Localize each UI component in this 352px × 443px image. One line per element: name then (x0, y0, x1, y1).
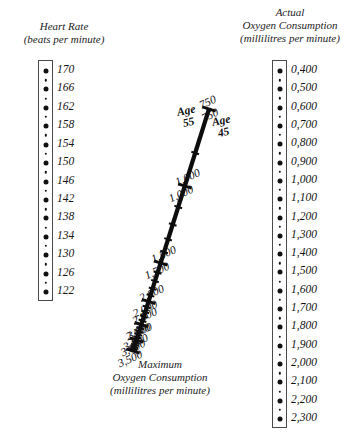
heart-rate-minor-tick (44, 226, 46, 228)
heart-rate-minor-tick (44, 282, 46, 284)
actual-oxygen-tick (277, 398, 282, 403)
heart-rate-minor-tick (44, 171, 46, 173)
actual-oxygen-tick-label: 1,600 (291, 284, 317, 296)
actual-oxygen-tick-label: 1,800 (291, 321, 317, 333)
actual-oxygen-minor-tick (278, 390, 280, 392)
heart-rate-tick (43, 161, 48, 166)
actual-oxygen-minor-tick (278, 317, 280, 319)
actual-oxygen-tick-container (273, 61, 286, 427)
actual-oxygen-tick (277, 87, 282, 92)
actual-oxygen-tick-label: 1,000 (291, 174, 317, 186)
actual-oxygen-tick (277, 178, 282, 183)
heart-rate-tick-label: 142 (57, 193, 74, 205)
actual-oxygen-tick-label: 1,500 (291, 266, 317, 278)
actual-oxygen-minor-tick (278, 299, 280, 301)
actual-oxygen-tick (277, 380, 282, 385)
heart-rate-tick (43, 271, 48, 276)
actual-oxygen-tick-label: 1,900 (291, 339, 317, 351)
actual-oxygen-tick (277, 325, 282, 330)
actual-oxygen-minor-tick (278, 79, 280, 81)
actual-oxygen-tick (277, 105, 282, 110)
age-45-value: 45 (213, 124, 234, 140)
heart-rate-title-line-2: (beats per minute) (0, 33, 128, 46)
actual-oxygen-minor-tick (278, 225, 280, 227)
actual-oxygen-minor-tick (278, 244, 280, 246)
heart-rate-tick-container (39, 61, 52, 300)
actual-oxygen-tick-label: 1,300 (291, 229, 317, 241)
actual-oxygen-minor-tick (278, 409, 280, 411)
actual-oxygen-title-line-3: (millilitres per minute) (228, 32, 352, 45)
actual-oxygen-tick-label: 0,500 (291, 83, 317, 95)
maximum-oxygen-minor-tick (191, 152, 199, 154)
heart-rate-tick-label: 146 (57, 175, 74, 187)
actual-oxygen-minor-tick (278, 97, 280, 99)
maximum-oxygen-minor-tick (164, 238, 172, 240)
actual-oxygen-minor-tick (278, 207, 280, 209)
heart-rate-tick-label: 154 (57, 138, 74, 150)
heart-rate-tick (43, 105, 48, 110)
actual-oxygen-tick-label: 0,900 (291, 156, 317, 168)
actual-oxygen-minor-tick (278, 262, 280, 264)
actual-oxygen-tick (277, 233, 282, 238)
maximum-oxygen-minor-tick (174, 206, 182, 208)
heart-rate-tick-label: 166 (57, 83, 74, 95)
actual-oxygen-tick (277, 362, 282, 367)
heart-rate-axis-title: Heart Rate (beats per minute) (0, 20, 128, 46)
heart-rate-tick (43, 234, 48, 239)
heart-rate-minor-tick (44, 153, 46, 155)
actual-oxygen-tick-label: 0,700 (291, 119, 317, 131)
actual-oxygen-tick-label: 1,200 (291, 211, 317, 223)
actual-oxygen-axis-title: Actual Oxygen Consumption (millilitres p… (228, 6, 352, 45)
age-55-value: 55 (178, 114, 199, 130)
actual-oxygen-minor-tick (278, 116, 280, 118)
actual-oxygen-scale (272, 60, 287, 428)
maximum-oxygen-axis-title: Maximum Oxygen Consumption (millilitres … (70, 358, 250, 397)
actual-oxygen-tick-label: 2,200 (291, 394, 317, 406)
heart-rate-tick-label: 170 (57, 64, 74, 76)
actual-oxygen-minor-tick (278, 171, 280, 173)
heart-rate-minor-tick (44, 134, 46, 136)
heart-rate-tick (43, 216, 48, 221)
maximum-oxygen-title-line-1: Maximum (70, 358, 250, 371)
actual-oxygen-minor-tick (278, 134, 280, 136)
actual-oxygen-tick (277, 215, 282, 220)
heart-rate-tick (43, 87, 48, 92)
heart-rate-minor-tick (44, 245, 46, 247)
actual-oxygen-tick-label: 2,100 (291, 376, 317, 388)
actual-oxygen-tick (277, 142, 282, 147)
actual-oxygen-tick (277, 270, 282, 275)
heart-rate-tick (43, 142, 48, 147)
heart-rate-tick (43, 69, 48, 74)
maximum-oxygen-minor-tick (169, 223, 177, 225)
actual-oxygen-title-line-1: Actual (228, 6, 352, 19)
maximum-oxygen-title-line-3: (millilitres per minute) (70, 384, 250, 397)
heart-rate-tick (43, 290, 48, 295)
heart-rate-tick-label: 138 (57, 212, 74, 224)
actual-oxygen-minor-tick (278, 280, 280, 282)
actual-oxygen-tick-label: 1,400 (291, 247, 317, 259)
heart-rate-tick-label: 162 (57, 101, 74, 113)
actual-oxygen-title-line-2: Oxygen Consumption (228, 19, 352, 32)
actual-oxygen-tick (277, 417, 282, 422)
heart-rate-minor-tick (44, 208, 46, 210)
actual-oxygen-tick (277, 307, 282, 312)
heart-rate-tick-label: 150 (57, 156, 74, 168)
actual-oxygen-tick-label: 1,100 (291, 192, 317, 204)
heart-rate-tick (43, 179, 48, 184)
actual-oxygen-minor-tick (278, 335, 280, 337)
actual-oxygen-tick-label: 0,800 (291, 138, 317, 150)
heart-rate-scale (38, 60, 53, 301)
actual-oxygen-minor-tick (278, 372, 280, 374)
actual-oxygen-tick-label: 2,000 (291, 357, 317, 369)
actual-oxygen-tick (277, 197, 282, 202)
actual-oxygen-tick (277, 69, 282, 74)
actual-oxygen-minor-tick (278, 189, 280, 191)
maximum-oxygen-title-line-2: Oxygen Consumption (70, 371, 250, 384)
heart-rate-minor-tick (44, 79, 46, 81)
heart-rate-tick-label: 130 (57, 248, 74, 260)
heart-rate-tick (43, 253, 48, 258)
actual-oxygen-tick (277, 160, 282, 165)
maximum-oxygen-minor-tick (151, 280, 159, 282)
actual-oxygen-tick (277, 123, 282, 128)
heart-rate-minor-tick (44, 116, 46, 118)
